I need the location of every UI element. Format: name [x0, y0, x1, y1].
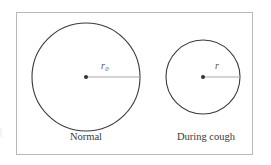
radius-label-normal: r0: [101, 61, 108, 71]
caption-normal: Normal: [48, 132, 124, 143]
figure-root: | r0 r Normal During cough: [0, 0, 271, 165]
center-dot-normal: [84, 75, 88, 79]
radius-label-normal-subscript: 0: [105, 65, 108, 72]
caption-during-cough: During cough: [160, 132, 252, 143]
center-dot-during-cough: [201, 75, 205, 79]
radius-label-during-cough-symbol: r: [215, 60, 219, 71]
radius-label-during-cough: r: [215, 61, 219, 71]
